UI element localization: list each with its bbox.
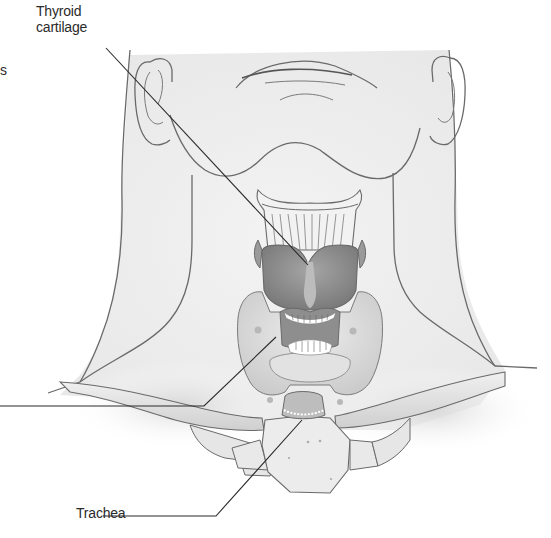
label-cropped-fragment: s	[0, 62, 7, 78]
label-thyroid-cartilage-line2: cartilage	[36, 19, 87, 35]
trachea	[282, 392, 325, 419]
label-thyroid-cartilage: Thyroid cartilage	[36, 3, 87, 35]
anatomy-diagram: Thyroid cartilage Trachea s	[0, 0, 551, 538]
cricoid-cartilage	[280, 308, 340, 355]
label-thyroid-cartilage-line1: Thyroid	[36, 3, 87, 19]
label-trachea: Trachea	[76, 505, 125, 521]
neck-illustration	[0, 0, 551, 538]
